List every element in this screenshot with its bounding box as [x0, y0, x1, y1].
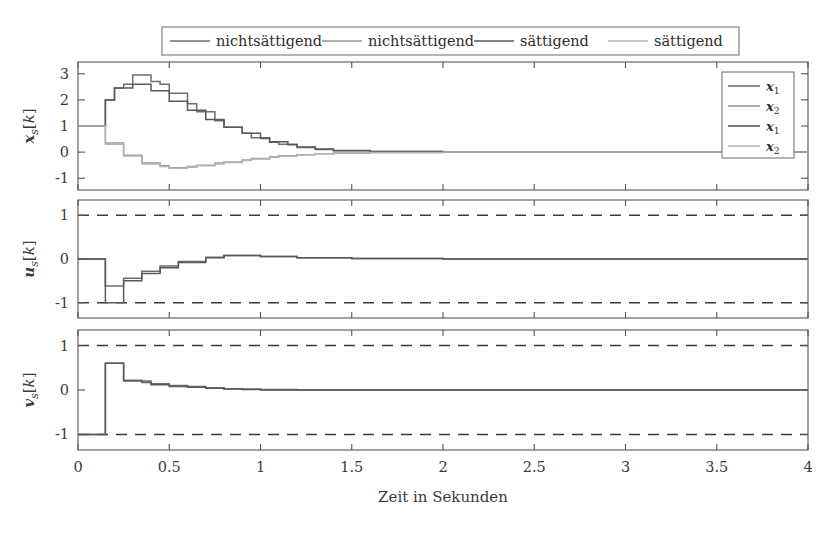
ytick-label-2-1: 0 [60, 382, 69, 398]
ytick-label-0-1: 2 [60, 92, 69, 108]
chart-svg: 3210-1xs[k]10-1us[k]10-1vs[k]00.511.522.… [0, 0, 836, 533]
ytick-label-0-4: -1 [55, 170, 69, 186]
subplot-1: 10-1 [55, 200, 808, 318]
xtick-label-6: 3 [621, 459, 630, 475]
xtick-label-1: 0.5 [158, 459, 181, 475]
xtick-label-5: 2.5 [523, 459, 546, 475]
series-0-0 [78, 75, 808, 152]
top-legend-label-3: sättigend [654, 33, 723, 49]
ylabel-0: xs[k] [20, 108, 41, 144]
xtick-label-2: 1 [256, 459, 265, 475]
plot-frame-0 [78, 62, 808, 190]
series-0-3 [78, 126, 808, 168]
ytick-label-0-0: 3 [60, 66, 69, 82]
ylabel-2: vs[k] [20, 372, 41, 407]
ytick-label-0-2: 1 [60, 118, 69, 134]
xtick-label-8: 4 [803, 459, 812, 475]
series-1-1 [78, 256, 808, 303]
subplot-2: 10-1 [55, 330, 808, 450]
xaxis-label: Zeit in Sekunden [378, 488, 508, 506]
subplot-0: 3210-1 [55, 62, 808, 190]
ylabel-1: us[k] [20, 240, 41, 277]
ytick-label-1-1: 0 [60, 251, 69, 267]
top-legend-label-0: nichtsättigend [216, 33, 322, 49]
xtick-label-0: 0 [73, 459, 82, 475]
ytick-label-1-2: -1 [55, 295, 69, 311]
ytick-label-1-0: 1 [60, 207, 69, 223]
inner-legend[interactable]: x1x2x1x2 [722, 72, 794, 158]
ylabel-text-0: xs[k] [20, 108, 41, 144]
ylabel-text-2: vs[k] [20, 372, 41, 407]
figure-root: 3210-1xs[k]10-1us[k]10-1vs[k]00.511.522.… [0, 0, 836, 533]
xtick-label-4: 2 [438, 459, 447, 475]
series-2-0 [78, 363, 808, 434]
ylabel-text-1: us[k] [20, 240, 41, 277]
ytick-label-2-2: -1 [55, 426, 69, 442]
ytick-label-2-0: 1 [60, 338, 69, 354]
inner-legend-box [722, 72, 794, 158]
xtick-label-3: 1.5 [340, 459, 363, 475]
ytick-label-0-3: 0 [60, 144, 69, 160]
xtick-label-7: 3.5 [705, 459, 728, 475]
top-legend-label-2: sättigend [520, 33, 589, 49]
top-legend[interactable]: nichtsättigendnichtsättigendsättigendsät… [162, 27, 739, 55]
top-legend-label-1: nichtsättigend [368, 33, 474, 49]
series-0-1 [78, 126, 808, 168]
series-2-1 [78, 363, 808, 434]
series-1-0 [78, 256, 808, 287]
